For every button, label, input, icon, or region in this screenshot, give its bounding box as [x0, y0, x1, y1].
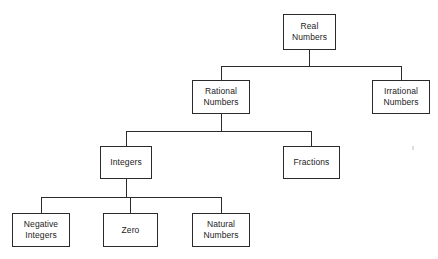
connector-bus-level4 [41, 197, 222, 198]
connector-bus-to-fractions [311, 131, 312, 147]
node-negative-integers-label: Negative Integers [22, 219, 60, 241]
real-numbers-classification-diagram: Real Numbers Rational Numbers Irrational… [0, 0, 438, 259]
node-fractions-label: Fractions [292, 157, 332, 168]
connector-integers-to-bus [126, 179, 127, 198]
node-zero-label: Zero [120, 225, 142, 236]
connector-bus-to-irrational [401, 66, 402, 81]
node-rational-numbers-label: Rational Numbers [201, 86, 240, 108]
node-rational-numbers: Rational Numbers [192, 80, 250, 114]
node-real-numbers: Real Numbers [283, 14, 336, 50]
connector-bus-to-negative-integers [41, 197, 42, 214]
connector-bus-level2 [221, 66, 402, 67]
connector-rational-to-bus [221, 114, 222, 132]
node-integers-label: Integers [108, 157, 144, 168]
node-irrational-numbers: Irrational Numbers [372, 80, 430, 114]
node-negative-integers: Negative Integers [12, 213, 70, 247]
scan-artifact-speck [412, 146, 414, 150]
node-integers: Integers [100, 146, 152, 179]
node-natural-numbers: Natural Numbers [192, 213, 250, 247]
connector-bus-to-rational [221, 66, 222, 81]
connector-bus-level3 [126, 131, 312, 132]
connector-bus-to-zero [130, 197, 131, 214]
connector-real-to-bus [309, 50, 310, 67]
connector-bus-to-natural-numbers [221, 197, 222, 214]
node-zero: Zero [103, 213, 158, 247]
node-irrational-numbers-label: Irrational Numbers [381, 86, 420, 108]
node-fractions: Fractions [283, 146, 340, 179]
node-natural-numbers-label: Natural Numbers [201, 219, 240, 241]
connector-bus-to-integers [126, 131, 127, 147]
node-real-numbers-label: Real Numbers [290, 21, 329, 43]
